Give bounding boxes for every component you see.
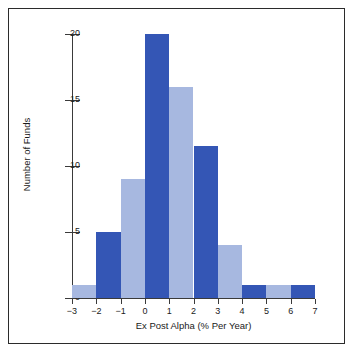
x-tick-label: 3 — [208, 306, 228, 316]
x-tick-mark — [266, 299, 267, 304]
histogram-bar — [242, 285, 266, 298]
x-tick-mark — [291, 299, 292, 304]
x-tick-mark — [145, 299, 146, 304]
x-tick-mark — [121, 299, 122, 304]
histogram-bars — [72, 34, 315, 298]
histogram-bar — [266, 285, 290, 298]
histogram-bar — [96, 232, 120, 298]
x-tick-label: 5 — [256, 306, 276, 316]
x-tick-mark — [218, 299, 219, 304]
x-tick-label: 7 — [305, 306, 325, 316]
x-tick-label: 0 — [135, 306, 155, 316]
y-axis-title: Number of Funds — [21, 95, 32, 215]
x-tick-mark — [96, 299, 97, 304]
histogram-bar — [218, 245, 242, 298]
x-tick-mark — [242, 299, 243, 304]
x-tick-label: −1 — [111, 306, 131, 316]
x-tick-mark — [169, 299, 170, 304]
x-tick-mark — [315, 299, 316, 304]
x-tick-label: 6 — [281, 306, 301, 316]
histogram-bar — [121, 179, 145, 298]
histogram-bar — [72, 285, 96, 298]
x-tick-mark — [72, 299, 73, 304]
x-tick-label: 2 — [184, 306, 204, 316]
histogram-bar — [169, 87, 193, 298]
x-tick-label: −2 — [86, 306, 106, 316]
x-tick-mark — [194, 299, 195, 304]
x-tick-label: 1 — [159, 306, 179, 316]
plot-area: 05101520 −3−2−101234567 Number of Funds … — [9, 9, 346, 345]
x-axis-title: Ex Post Alpha (% Per Year) — [72, 320, 315, 331]
chart-frame: 05101520 −3−2−101234567 Number of Funds … — [8, 8, 345, 344]
x-tick-label: −3 — [62, 306, 82, 316]
histogram-bar — [145, 34, 169, 298]
histogram-bar — [291, 285, 315, 298]
histogram-bar — [194, 146, 218, 298]
x-tick-label: 4 — [232, 306, 252, 316]
